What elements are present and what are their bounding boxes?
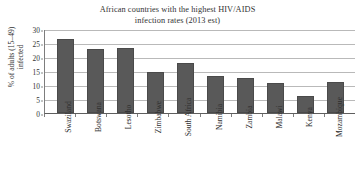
bar-slot bbox=[110, 30, 140, 113]
x-label-slot: Zimbabwe bbox=[139, 116, 169, 174]
x-label-slot: Zambia bbox=[230, 116, 260, 174]
y-tick-label: 30 bbox=[33, 26, 40, 35]
chart-title-line-2: infection rates (2013 est) bbox=[0, 15, 355, 26]
bar-slot bbox=[290, 30, 320, 113]
x-label-slot: Lesotho bbox=[109, 116, 139, 174]
x-axis-label: South Africa bbox=[184, 98, 193, 137]
x-axis-category-labels: SwazilandBotswanaLesothoZimbabweSouth Af… bbox=[44, 116, 355, 174]
y-tick-label: 0 bbox=[36, 110, 40, 119]
y-tick-label: 25 bbox=[33, 40, 40, 49]
x-label-slot: Swaziland bbox=[49, 116, 79, 174]
x-label-slot: Botswana bbox=[79, 116, 109, 174]
y-tick-label: 10 bbox=[33, 82, 40, 91]
y-tick-label: 5 bbox=[36, 96, 40, 105]
x-axis-label: Mozambique bbox=[335, 97, 344, 137]
x-axis-label: Kenya bbox=[305, 107, 314, 127]
y-tick-label: 20 bbox=[33, 54, 40, 63]
chart-title-line-1: African countries with the highest HIV/A… bbox=[0, 4, 355, 15]
x-axis-label: Botswana bbox=[94, 102, 103, 132]
x-axis-label: Zambia bbox=[245, 105, 254, 128]
x-label-slot: Kenya bbox=[290, 116, 320, 174]
chart-title: African countries with the highest HIV/A… bbox=[0, 4, 355, 26]
bar-slot bbox=[80, 30, 110, 113]
x-label-slot: South Africa bbox=[169, 116, 199, 174]
y-axis-title: % of adults (15–49) infected bbox=[7, 5, 25, 109]
x-label-slot: Mozambique bbox=[320, 116, 350, 174]
bar-slot bbox=[230, 30, 260, 113]
bar-chart: African countries with the highest HIV/A… bbox=[0, 0, 355, 175]
x-label-slot: Namibia bbox=[199, 116, 229, 174]
bar bbox=[117, 48, 134, 113]
x-axis-label: Zimbabwe bbox=[154, 101, 163, 133]
bar-slot bbox=[200, 30, 230, 113]
y-axis-title-line-1: % of adults (15–49) bbox=[7, 5, 16, 109]
plot-area bbox=[44, 30, 355, 114]
bar-slot bbox=[260, 30, 290, 113]
x-axis-label: Lesotho bbox=[124, 105, 133, 129]
y-tick-label: 15 bbox=[33, 68, 40, 77]
x-axis-label: Malawi bbox=[275, 105, 284, 128]
x-label-slot: Malawi bbox=[260, 116, 290, 174]
bar-series bbox=[45, 30, 355, 113]
y-axis-tick-labels: 051015202530 bbox=[24, 30, 42, 114]
x-axis-label: Namibia bbox=[215, 104, 224, 130]
x-axis-label: Swaziland bbox=[64, 101, 73, 133]
